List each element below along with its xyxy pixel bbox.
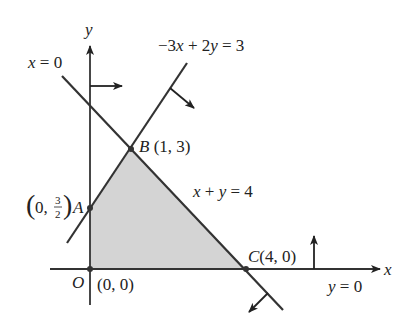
svg-text:A: A [72, 198, 84, 217]
svg-text:3: 3 [55, 194, 61, 206]
svg-text:0,: 0, [35, 198, 48, 217]
x-axis-label: x [383, 260, 392, 279]
svg-text:2: 2 [55, 208, 61, 220]
label-vertex-O: O [72, 273, 84, 292]
vertex-O-dot [87, 266, 93, 272]
label-x-eq-0: x = 0 [27, 53, 62, 72]
label-y-eq-0: y = 0 [326, 277, 362, 296]
vertex-A-dot [87, 205, 93, 211]
label-vertex-O-coords: (0, 0) [97, 275, 134, 294]
label-x-plus-y-eq-4: x + y = 4 [192, 182, 253, 201]
svg-text:(: ( [26, 189, 35, 220]
feasible-region-diagram: y x x = 0 −3x + 2y = 3 x + y = 4 y = 0 B… [0, 0, 416, 331]
label-vertex-B: B (1, 3) [139, 137, 190, 156]
y-axis-label: y [83, 20, 93, 39]
arrow-x-plus-y-direction [249, 293, 268, 312]
arrow-neg3x-direction [170, 88, 194, 108]
label-vertex-A: ( 0, 3 2 ) A [26, 189, 84, 220]
label-vertex-C: C(4, 0) [248, 247, 296, 266]
vertex-C-dot [243, 266, 249, 272]
svg-text:): ) [63, 189, 72, 220]
vertex-B-dot [128, 146, 134, 152]
label-neg3x-plus-2y-eq-3: −3x + 2y = 3 [158, 36, 244, 55]
feasible-region [90, 149, 246, 269]
